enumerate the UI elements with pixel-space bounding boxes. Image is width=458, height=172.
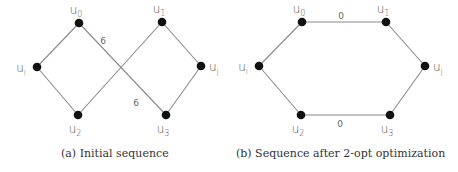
node-label-u1: u1 — [153, 2, 166, 18]
figure-a-initial-sequence: 66u0u1uiuju2u3 — [16, 2, 219, 138]
edge-u3-uj — [166, 66, 201, 115]
node-label-u2: u2 — [292, 122, 305, 138]
node-u2 — [297, 111, 306, 120]
node-label-u0: u0 — [70, 3, 83, 19]
node-label-u0: u0 — [293, 2, 306, 18]
edge-weight-label: 6 — [133, 98, 139, 108]
node-label-ui: ui — [16, 61, 26, 77]
caption-b: (b) Sequence after 2-opt optimization — [236, 147, 445, 160]
edge-weight-label: 0 — [337, 119, 343, 129]
edge-weight-label: 0 — [338, 11, 344, 21]
edge-weight-label: 6 — [100, 36, 106, 46]
node-label-u1: u1 — [377, 2, 390, 18]
edge-u2-ui — [37, 67, 78, 115]
node-label-u2: u2 — [69, 122, 82, 138]
node-label-uj: uj — [209, 60, 219, 76]
edge-uj-u1 — [162, 22, 201, 66]
node-u3 — [162, 111, 171, 120]
node-label-ui: ui — [238, 60, 248, 76]
node-u2 — [74, 111, 83, 120]
node-u0 — [298, 18, 307, 27]
figure-b-after-2opt: 00u0u1uiuju2u3 — [238, 2, 443, 138]
edge-uj-u3 — [390, 66, 425, 115]
node-uj — [421, 62, 430, 71]
edge-u2-ui — [259, 66, 301, 115]
node-u1 — [158, 18, 167, 27]
node-label-u3: u3 — [381, 122, 394, 138]
caption-a: (a) Initial sequence — [61, 147, 169, 160]
edge-u1-uj — [386, 22, 425, 66]
edge-ui-u0 — [37, 23, 79, 67]
node-u1 — [382, 18, 391, 27]
node-label-uj: uj — [433, 60, 443, 76]
node-ui — [255, 62, 264, 71]
node-u3 — [386, 111, 395, 120]
node-u0 — [75, 19, 84, 28]
edge-ui-u0 — [259, 22, 302, 66]
node-ui — [33, 63, 42, 72]
node-label-u3: u3 — [157, 122, 170, 138]
node-uj — [197, 62, 206, 71]
edge-u0-u3 — [79, 23, 166, 115]
